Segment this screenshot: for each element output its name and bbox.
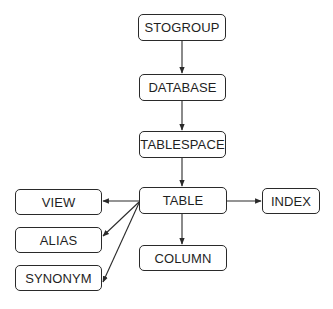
node-stogroup: STOGROUP — [138, 14, 226, 41]
node-index: INDEX — [262, 188, 320, 214]
node-view: VIEW — [15, 189, 102, 215]
node-table: TABLE — [139, 187, 227, 214]
node-column: COLUMN — [139, 245, 227, 271]
node-alias: ALIAS — [15, 227, 102, 253]
edge-table-synonym — [103, 203, 139, 282]
node-synonym: SYNONYM — [15, 265, 102, 291]
edge-table-alias — [103, 202, 139, 236]
node-database: DATABASE — [139, 74, 226, 101]
node-tablespace: TABLESPACE — [139, 131, 226, 158]
diagram-canvas: STOGROUP DATABASE TABLESPACE TABLE INDEX… — [0, 0, 333, 309]
